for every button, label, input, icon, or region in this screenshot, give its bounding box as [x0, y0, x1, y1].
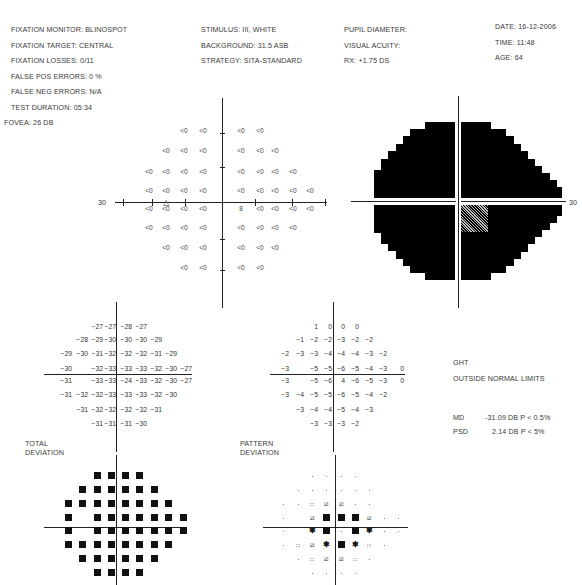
p-symbol-black-square	[323, 527, 330, 534]
p-symbol-black-square	[94, 486, 101, 493]
md-label: MD	[453, 413, 464, 422]
p-symbol-diagonal: ⧄	[306, 514, 318, 522]
td-value: −28	[72, 336, 88, 343]
p-symbol-dot	[312, 573, 313, 574]
p-symbol-diagonal: ⧄	[335, 500, 347, 508]
p-symbol-black-square	[79, 500, 86, 507]
pattern-deviation-label-1: PATTERN	[240, 439, 273, 448]
td-value: −33	[100, 377, 116, 384]
p-symbol-dot	[341, 490, 342, 491]
p-symbol-black-square	[94, 541, 101, 548]
p-symbol-black-square	[122, 472, 129, 479]
p-symbol-dot	[341, 531, 342, 532]
p-symbol-black-square	[94, 500, 101, 507]
pd-value: −3	[371, 365, 387, 372]
pd-value: 0	[388, 377, 404, 384]
p-symbol-black-square	[94, 527, 101, 534]
grayscale-block	[542, 205, 550, 230]
p-symbol-dot	[298, 504, 299, 505]
p-symbol-dot	[326, 490, 327, 491]
grayscale-block	[425, 122, 455, 198]
grayscale-block	[535, 166, 542, 198]
p-symbol-diagonal: ⧄	[363, 514, 375, 522]
grayscale-block	[550, 180, 557, 198]
p-symbol-black-square	[136, 472, 143, 479]
pd-value: −2	[343, 420, 359, 427]
td-value: −32	[100, 406, 116, 413]
p-symbol-black-square	[108, 569, 115, 576]
grayscale-block	[461, 122, 491, 198]
pd-value: −2	[371, 391, 387, 398]
td-value: −32	[146, 377, 162, 384]
grayscale-block	[542, 173, 550, 198]
p-symbol-dot	[298, 490, 299, 491]
td-value: −30	[161, 377, 177, 384]
pd-value: −2	[273, 350, 289, 357]
grayscale-block	[557, 187, 562, 198]
td-value: −32	[131, 406, 147, 413]
p-symbol-dot	[398, 531, 399, 532]
td-value: −32	[146, 391, 162, 398]
grayscale-plot	[0, 0, 582, 320]
p-symbol-black-square	[151, 555, 158, 562]
p-symbol-black-square	[136, 569, 143, 576]
p-symbol-sparse: ∷	[306, 500, 318, 508]
grayscale-axis-label: 30	[569, 198, 577, 207]
grayscale-y-axis-line	[458, 96, 459, 308]
p-symbol-black-square	[122, 527, 129, 534]
p-symbol-black-square	[108, 486, 115, 493]
pd-x-axis	[270, 374, 405, 375]
p-symbol-dot	[384, 531, 385, 532]
p-symbol-checker: ✱	[306, 527, 318, 535]
td-value: −30	[100, 336, 116, 343]
p-symbol-dot	[298, 559, 299, 560]
grayscale-block	[514, 205, 521, 259]
grayscale-block	[506, 205, 514, 266]
p-symbol-black-square	[151, 514, 158, 521]
p-symbol-dot	[283, 518, 284, 519]
p-symbol-black-square	[108, 541, 115, 548]
p-symbol-dot	[369, 559, 370, 560]
td-value: −32	[146, 365, 162, 372]
p-symbol-black-square	[108, 500, 115, 507]
p-symbol-dot	[283, 504, 284, 505]
p-symbol-black-square	[65, 527, 72, 534]
p-symbol-dot	[355, 490, 356, 491]
pd-value: −3	[273, 365, 289, 372]
grayscale-block	[557, 205, 562, 216]
p-symbol-dot	[341, 573, 342, 574]
p-symbol-black-square	[165, 541, 172, 548]
td-value: −33	[131, 391, 147, 398]
grayscale-block	[388, 151, 396, 198]
td-value: −33	[131, 377, 147, 384]
p-symbol-black-square	[180, 514, 187, 521]
p-symbol-dot	[341, 476, 342, 477]
grayscale-block	[550, 205, 557, 223]
p-symbol-black-square	[108, 472, 115, 479]
p-symbol-black-square	[180, 527, 187, 534]
p-symbol-black-square	[352, 527, 359, 534]
p-symbol-black-square	[151, 541, 158, 548]
ght-title: GHT	[453, 358, 468, 367]
p-symbol-diagonal: ⧄	[335, 555, 347, 563]
p-symbol-dot	[369, 490, 370, 491]
p-symbol-black-square	[94, 569, 101, 576]
td-value: −32	[116, 406, 132, 413]
p-symbol-black-square	[151, 486, 158, 493]
td-value: −32	[116, 350, 132, 357]
p-symbol-black-square	[94, 555, 101, 562]
pd-value: −2	[357, 336, 373, 343]
td-value: −30	[72, 350, 88, 357]
td-value: −30	[131, 420, 147, 427]
pd-value: −2	[371, 350, 387, 357]
p-symbol-black-square	[352, 514, 359, 521]
grayscale-block	[528, 205, 535, 244]
p-symbol-dot	[312, 476, 313, 477]
p-symbol-black-square	[165, 500, 172, 507]
p-symbol-black-square	[165, 514, 172, 521]
grayscale-block	[491, 205, 506, 273]
td-value: −31	[56, 377, 72, 384]
td-value: −27	[176, 377, 192, 384]
grayscale-block	[396, 144, 403, 198]
p-symbol-diagonal: ⧄	[320, 555, 332, 563]
